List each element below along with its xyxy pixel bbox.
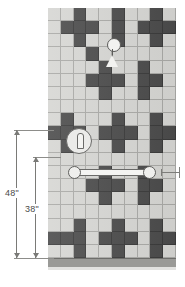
tile-light: [112, 205, 125, 218]
tile-light: [163, 205, 176, 218]
tile-dark: [150, 113, 163, 126]
tile-light: [61, 47, 74, 60]
tile-dark: [138, 179, 151, 192]
tile-light: [61, 205, 74, 218]
tile-light: [61, 34, 74, 47]
tile-light: [74, 47, 87, 60]
tile-light: [86, 245, 99, 258]
tile-light: [86, 8, 99, 21]
tile-light: [74, 87, 87, 100]
tile-light: [125, 219, 138, 232]
tile-light: [61, 8, 74, 21]
valve-lever: [77, 133, 84, 149]
tile-dark: [150, 126, 163, 139]
tile-light: [48, 47, 61, 60]
tile-light: [99, 100, 112, 113]
tile-dark: [125, 232, 138, 245]
tile-light: [125, 179, 138, 192]
tile-light: [61, 153, 74, 166]
tile-light: [125, 192, 138, 205]
tile-dark: [112, 74, 125, 87]
edge-dimension-tick: [161, 167, 181, 177]
tile-light: [125, 47, 138, 60]
tile-dark: [99, 192, 112, 205]
tile-light: [163, 140, 176, 153]
edge-dimension-end: [179, 167, 180, 178]
tile-light: [163, 47, 176, 60]
tile-dark: [99, 126, 112, 139]
tile-dark: [48, 232, 61, 245]
tile-dark: [61, 113, 74, 126]
tile-dark: [150, 245, 163, 258]
tile-dark: [86, 74, 99, 87]
tile-light: [48, 192, 61, 205]
tile-light: [86, 232, 99, 245]
grab-bar-flange-right: [143, 166, 156, 179]
tile-light: [48, 166, 61, 179]
tile-light: [125, 74, 138, 87]
tile-dark: [48, 126, 61, 139]
tile-light: [163, 87, 176, 100]
tile-dark: [112, 140, 125, 153]
tile-dark: [150, 34, 163, 47]
tile-light: [74, 74, 87, 87]
dimension-arrow-38-top: [33, 157, 39, 162]
tile-light: [150, 100, 163, 113]
tile-light: [163, 245, 176, 258]
tile-dark: [112, 245, 125, 258]
tile-light: [61, 61, 74, 74]
tile-light: [125, 205, 138, 218]
tile-light: [48, 100, 61, 113]
tile-light: [61, 192, 74, 205]
tile-light: [48, 8, 61, 21]
tile-dark: [74, 21, 87, 34]
tile-light: [99, 113, 112, 126]
tile-light: [125, 140, 138, 153]
tile-light: [48, 113, 61, 126]
tile-dark: [163, 21, 176, 34]
tile-light: [150, 192, 163, 205]
tile-light: [125, 153, 138, 166]
tile-dark: [112, 126, 125, 139]
tile-dark: [112, 21, 125, 34]
tile-light: [150, 153, 163, 166]
tile-light: [138, 245, 151, 258]
tile-light: [48, 153, 61, 166]
tile-light: [163, 219, 176, 232]
tile-light: [125, 34, 138, 47]
tile-light: [138, 219, 151, 232]
tile-light: [86, 192, 99, 205]
tile-light: [163, 113, 176, 126]
tile-dark: [150, 8, 163, 21]
tile-light: [48, 219, 61, 232]
tile-light: [99, 8, 112, 21]
tile-light: [86, 87, 99, 100]
tile-light: [48, 205, 61, 218]
tile-light: [48, 21, 61, 34]
dimension-arrow-48-bottom: [14, 253, 20, 258]
tile-light: [74, 192, 87, 205]
tile-light: [112, 153, 125, 166]
dimension-arrow-38-bottom: [33, 253, 39, 258]
tile-light: [150, 61, 163, 74]
tile-light: [86, 219, 99, 232]
tile-light: [125, 113, 138, 126]
tile-dark: [163, 232, 176, 245]
tile-dark: [112, 113, 125, 126]
tile-light: [138, 205, 151, 218]
tile-dark: [138, 74, 151, 87]
tile-light: [112, 87, 125, 100]
tile-dark: [150, 140, 163, 153]
tile-dark: [150, 232, 163, 245]
tile-light: [86, 100, 99, 113]
tile-light: [163, 74, 176, 87]
dimension-label-48: 48": [4, 188, 20, 198]
tile-dark: [112, 8, 125, 21]
tile-light: [150, 87, 163, 100]
witness-line-top-48: [14, 130, 54, 131]
dimension-arrow-48-top: [14, 130, 20, 135]
tile-light: [74, 61, 87, 74]
tile-dark: [150, 179, 163, 192]
tile-dark: [138, 87, 151, 100]
tile-light: [86, 153, 99, 166]
